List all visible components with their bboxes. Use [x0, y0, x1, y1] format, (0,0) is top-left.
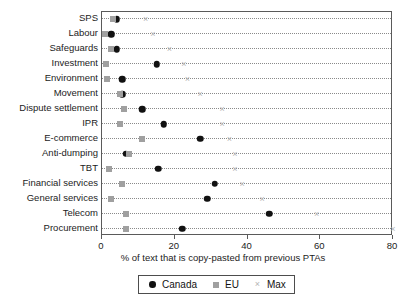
- data-point-max: ×: [165, 45, 174, 54]
- x-axis-tick: [174, 235, 175, 239]
- y-axis-tick-label: SPS: [0, 13, 98, 23]
- circle-icon: [147, 279, 158, 290]
- x-axis-tick-label: 40: [241, 240, 252, 251]
- data-point-max: ×: [179, 60, 188, 69]
- y-axis-tick-label: Investment: [0, 58, 98, 68]
- y-axis-tick-label: Financial services: [0, 178, 98, 188]
- data-point-canada: [266, 210, 273, 217]
- legend-label: Canada: [162, 279, 197, 290]
- row-gridline: [102, 33, 391, 35]
- data-point-canada: [153, 61, 160, 68]
- data-point-max: ×: [230, 164, 239, 173]
- chart-figure: SPSLabourSafeguardsInvestmentEnvironment…: [0, 0, 410, 302]
- x-axis-tick-label: 60: [314, 240, 325, 251]
- data-point-eu: [119, 181, 125, 187]
- data-point-eu: [123, 226, 129, 232]
- y-axis-tick-label: Labour: [0, 28, 98, 38]
- data-point-max: ×: [141, 15, 150, 24]
- data-point-canada: [179, 225, 186, 232]
- row-gridline: [102, 213, 391, 215]
- data-point-canada: [108, 31, 115, 38]
- y-axis-labels: SPSLabourSafeguardsInvestmentEnvironment…: [0, 11, 98, 235]
- row-gridline: [102, 93, 391, 95]
- data-point-eu: [139, 136, 145, 142]
- x-axis-tick: [319, 235, 320, 239]
- legend-entry: EU: [210, 279, 239, 290]
- row-gridline: [102, 63, 391, 65]
- row-gridline: [102, 78, 391, 80]
- x-icon: ×: [252, 279, 263, 290]
- x-axis-tick-label: 20: [168, 240, 179, 251]
- x-axis-tick-label: 0: [98, 240, 103, 251]
- data-point-max: ×: [225, 134, 234, 143]
- y-axis-tick-label: E-commerce: [0, 133, 98, 143]
- data-point-max: ×: [238, 179, 247, 188]
- y-axis-tick-label: Dispute settlement: [0, 103, 98, 113]
- data-point-eu: [102, 31, 108, 37]
- data-point-canada: [139, 106, 146, 113]
- data-point-eu: [108, 196, 114, 202]
- data-point-eu: [110, 16, 116, 22]
- data-point-canada: [155, 166, 162, 173]
- data-point-eu: [103, 61, 109, 67]
- y-axis-tick-label: Telecom: [0, 208, 98, 218]
- chart-legend: CanadaEU×Max: [138, 275, 295, 294]
- data-point-max: ×: [218, 120, 227, 129]
- data-point-max: ×: [389, 224, 398, 233]
- data-point-eu: [126, 151, 132, 157]
- data-point-max: ×: [258, 194, 267, 203]
- row-gridline: [102, 228, 391, 230]
- y-axis-tick-label: IPR: [0, 118, 98, 128]
- y-axis-tick-label: Environment: [0, 73, 98, 83]
- x-axis-tick: [392, 235, 393, 239]
- row-gridline: [102, 123, 391, 125]
- x-axis-tick-label: 80: [387, 240, 398, 251]
- legend-entry: ×Max: [252, 279, 286, 290]
- row-gridline: [102, 48, 391, 50]
- data-point-max: ×: [196, 90, 205, 99]
- x-axis-tick: [101, 235, 102, 239]
- legend-label: EU: [225, 279, 239, 290]
- data-point-eu: [121, 106, 127, 112]
- data-point-canada: [113, 46, 120, 53]
- data-point-canada: [161, 121, 168, 128]
- y-axis-tick-label: Anti-dumping: [0, 148, 98, 158]
- y-axis-tick-label: General services: [0, 193, 98, 203]
- data-point-max: ×: [218, 105, 227, 114]
- data-point-canada: [197, 136, 204, 143]
- row-gridline: [102, 153, 391, 155]
- data-point-max: ×: [312, 209, 321, 218]
- data-point-max: ×: [230, 149, 239, 158]
- square-icon: [210, 279, 221, 290]
- y-axis-tick-label: Movement: [0, 88, 98, 98]
- data-point-eu: [108, 46, 114, 52]
- data-point-canada: [212, 180, 219, 187]
- data-point-canada: [204, 195, 211, 202]
- x-axis-title-text: % of text that is copy-pasted from previ…: [85, 252, 326, 263]
- data-point-eu: [106, 166, 112, 172]
- row-gridline: [102, 198, 391, 200]
- data-point-eu: [117, 121, 123, 127]
- data-point-max: ×: [183, 75, 192, 84]
- x-axis-title: % of text that is copy-pasted from previ…: [0, 252, 410, 263]
- y-axis-tick-label: TBT: [0, 163, 98, 173]
- data-point-eu: [104, 76, 110, 82]
- row-gridline: [102, 168, 391, 170]
- row-gridline: [102, 108, 391, 110]
- plot-area: ×××××××××××××××: [101, 11, 392, 235]
- row-gridline: [102, 138, 391, 140]
- legend-entry: Canada: [147, 279, 197, 290]
- data-point-eu: [123, 211, 129, 217]
- x-axis-tick: [247, 235, 248, 239]
- legend-label: Max: [267, 279, 286, 290]
- data-point-max: ×: [148, 30, 157, 39]
- data-point-eu: [117, 91, 123, 97]
- y-axis-tick-label: Procurement: [0, 223, 98, 233]
- y-axis-tick-label: Safeguards: [0, 43, 98, 53]
- data-point-canada: [119, 76, 126, 83]
